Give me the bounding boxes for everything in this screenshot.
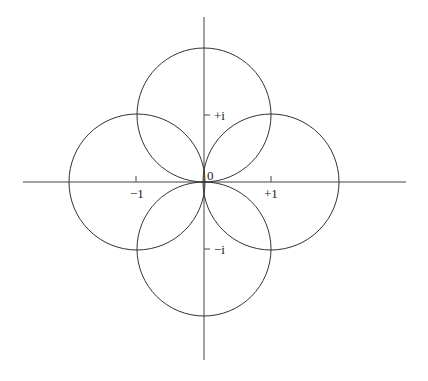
label-plus-i: +i <box>214 108 225 123</box>
label-minus-i: −i <box>214 242 225 257</box>
label-minus-1: −1 <box>130 186 144 201</box>
label-origin: 0 <box>207 168 214 183</box>
complex-plane-diagram: 0 −1 +1 +i −i <box>0 0 428 381</box>
label-plus-1: +1 <box>264 186 278 201</box>
